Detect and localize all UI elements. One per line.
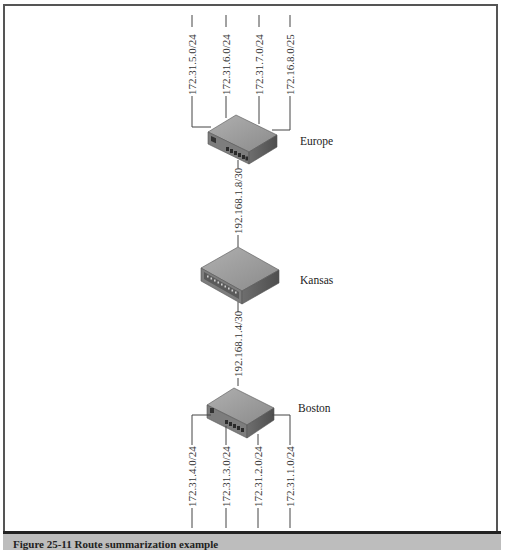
- europe-lan-label-2: 172.31.6.0/24: [220, 34, 232, 95]
- network-diagram: 172.31.5.0/24 172.31.6.0/24 172.31.7.0/2…: [0, 0, 505, 535]
- europe-router-icon[interactable]: [208, 115, 277, 164]
- boston-lan-labels: 172.31.4.0/24 172.31.3.0/24 172.31.2.0/2…: [186, 446, 296, 507]
- kansas-boston-link-label: 192.168.1.4/30: [232, 310, 244, 377]
- kansas-site-label: Kansas: [300, 274, 334, 286]
- kansas-router-icon[interactable]: [201, 247, 279, 304]
- boston-lan-label-3: 172.31.2.0/24: [252, 446, 264, 507]
- figure-caption-bar: Figure 25-11 Route summarization example: [3, 531, 501, 550]
- europe-lan-lines: [192, 15, 290, 130]
- boston-site-label: Boston: [298, 402, 331, 414]
- boston-router-icon[interactable]: [207, 388, 274, 438]
- europe-lan-label-4: 172.16.8.0/25: [284, 34, 296, 95]
- europe-kansas-link-label: 192.168.1.8/30: [232, 167, 244, 234]
- europe-lan-labels: 172.31.5.0/24 172.31.6.0/24 172.31.7.0/2…: [186, 34, 296, 95]
- europe-lan-label-3: 172.31.7.0/24: [253, 34, 265, 95]
- figure-caption: Figure 25-11 Route summarization example: [13, 538, 218, 550]
- boston-lan-label-2: 172.31.3.0/24: [220, 446, 232, 507]
- boston-lan-label-1: 172.31.4.0/24: [186, 446, 198, 507]
- boston-lan-label-4: 172.31.1.0/24: [284, 446, 296, 507]
- europe-lan-label-1: 172.31.5.0/24: [186, 34, 198, 95]
- europe-site-label: Europe: [300, 135, 333, 148]
